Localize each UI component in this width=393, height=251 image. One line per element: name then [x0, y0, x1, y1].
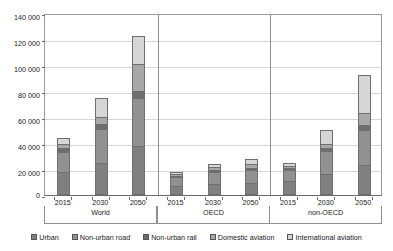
- legend-swatch-icon: [31, 234, 37, 240]
- legend-swatch-icon: [210, 234, 216, 240]
- group-separator: [270, 15, 271, 195]
- bar-segment-urban: [358, 165, 371, 195]
- legend-item-urban[interactable]: Urban: [31, 233, 59, 242]
- y-tickmark: [42, 171, 45, 172]
- bar-segment-international-aviation: [132, 36, 145, 63]
- group-separator: [158, 15, 159, 195]
- bar-segment-urban: [57, 172, 70, 195]
- bar-segment-urban: [95, 163, 108, 196]
- gridline: [45, 41, 381, 42]
- legend-item-non-urban-road[interactable]: Non-urban road: [72, 233, 130, 242]
- legend-label: Non-urban road: [80, 233, 130, 242]
- legend: UrbanNon-urban roadNon-urban railDomesti…: [0, 230, 393, 244]
- bar-segment-urban: [208, 184, 221, 195]
- y-tickmark: [42, 67, 45, 68]
- bar-segment-non-urban-road: [358, 130, 371, 165]
- y-tickmark: [42, 145, 45, 146]
- bar-world-2050: [132, 36, 145, 195]
- bar-world-2030: [95, 98, 108, 195]
- bar-non-oecd-2015: [283, 163, 296, 195]
- legend-item-domestic-aviation[interactable]: Domestic aviation: [210, 233, 275, 242]
- bar-segment-domestic-aviation: [95, 117, 108, 124]
- y-tick-label: 20 000: [18, 170, 40, 178]
- y-tick-label: 140 000: [14, 14, 40, 22]
- legend-label: Domestic aviation: [218, 233, 275, 242]
- bar-segment-non-urban-road: [208, 172, 221, 184]
- bar-oecd-2015: [170, 172, 183, 195]
- legend-label: International aviation: [295, 233, 361, 242]
- legend-item-international-aviation[interactable]: International aviation: [287, 233, 361, 242]
- y-tick-label: 40 000: [18, 144, 40, 152]
- stacked-bar-chart: 140 000 120 000 100 000 80 000 60 000 40…: [0, 0, 393, 251]
- y-axis: 140 000 120 000 100 000 80 000 60 000 40…: [0, 0, 40, 251]
- bar-non-oecd-2050: [358, 75, 371, 195]
- group-label: non-OECD: [269, 208, 382, 218]
- bar-segment-urban: [320, 174, 333, 195]
- y-tickmark: [42, 41, 45, 42]
- bar-oecd-2030: [208, 164, 221, 195]
- y-tickmark: [42, 15, 45, 16]
- gridline: [45, 67, 381, 68]
- bar-segment-non-urban-road: [95, 129, 108, 163]
- bar-segment-non-urban-road: [320, 151, 333, 174]
- bar-segment-domestic-aviation: [132, 64, 145, 91]
- bar-segment-non-urban-road: [170, 177, 183, 186]
- gridline: [45, 93, 381, 94]
- legend-swatch-icon: [287, 234, 293, 240]
- y-tick-label: 60 000: [18, 118, 40, 126]
- bar-segment-international-aviation: [320, 130, 333, 144]
- bar-segment-urban: [170, 186, 183, 195]
- y-tick-label: 80 000: [18, 92, 40, 100]
- y-tick-label: 100 000: [14, 66, 40, 74]
- group-label: World: [44, 208, 157, 218]
- y-tick-label: 120 000: [14, 40, 40, 48]
- legend-label: Non-urban rail: [151, 233, 197, 242]
- bar-non-oecd-2030: [320, 130, 333, 195]
- bar-segment-non-urban-road: [57, 152, 70, 172]
- y-tickmark: [42, 93, 45, 94]
- bar-segment-domestic-aviation: [358, 113, 371, 125]
- bar-world-2015: [57, 138, 70, 195]
- y-tick-label: 0: [36, 192, 40, 200]
- bar-segment-urban: [132, 146, 145, 195]
- plot-area: [44, 14, 382, 196]
- group-label: OECD: [157, 208, 270, 218]
- bar-segment-international-aviation: [358, 75, 371, 113]
- x-axis-group-band: WorldOECDnon-OECD: [44, 196, 382, 224]
- bar-segment-urban: [283, 181, 296, 195]
- bar-segment-international-aviation: [95, 98, 108, 118]
- legend-item-non-urban-rail[interactable]: Non-urban rail: [143, 233, 197, 242]
- legend-swatch-icon: [143, 234, 149, 240]
- bar-oecd-2050: [245, 159, 258, 195]
- bar-segment-non-urban-road: [283, 170, 296, 180]
- bar-segment-non-urban-road: [245, 170, 258, 183]
- y-tickmark: [42, 119, 45, 120]
- bar-segment-urban: [245, 183, 258, 195]
- bar-segment-non-urban-road: [132, 98, 145, 146]
- legend-swatch-icon: [72, 234, 78, 240]
- legend-label: Urban: [39, 233, 59, 242]
